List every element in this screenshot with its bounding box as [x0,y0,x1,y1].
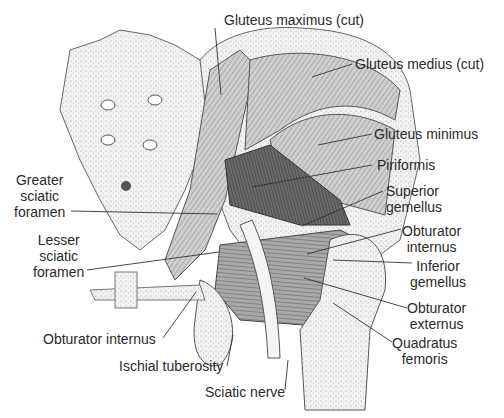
label-quadratus-femoris: Quadratus femoris [392,335,457,367]
label-ischial-tuberosity: Ischial tuberosity [119,358,223,374]
label-obturator-externus: Obturator externus [407,300,466,332]
label-gluteus-minimus: Gluteus minimus [374,126,478,142]
label-greater-sciatic-foramen: Greater sciatic foramen [14,172,65,220]
label-lesser-sciatic-foramen: Lesser sciatic foramen [33,232,84,280]
label-obturator-internus-right: Obturator internus [402,223,461,255]
label-sciatic-nerve: Sciatic nerve [205,384,285,400]
label-gluteus-medius-cut: Gluteus medius (cut) [355,56,484,72]
label-inferior-gemellus: Inferior gemellus [410,258,466,290]
label-obturator-internus-left: Obturator internus [43,331,156,347]
label-gluteus-maximus-cut: Gluteus maximus (cut) [224,12,364,28]
label-piriformis: Piriformis [377,157,435,173]
anatomy-illustration: Gluteus maximus (cut) Gluteus medius (cu… [0,0,504,418]
label-superior-gemellus: Superior gemellus [386,183,442,215]
